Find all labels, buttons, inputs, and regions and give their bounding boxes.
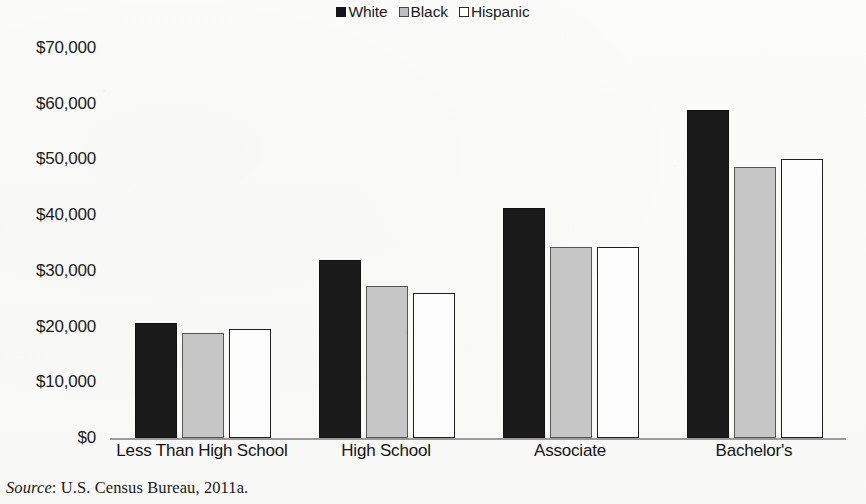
bar-hispanic-associate[interactable] <box>597 247 639 438</box>
legend-label-hispanic: Hispanic <box>471 4 530 20</box>
y-axis-tick-label: $70,000 <box>36 38 96 58</box>
x-axis-labels: Less Than High SchoolHigh SchoolAssociat… <box>110 441 846 467</box>
legend-item-hispanic[interactable]: Hispanic <box>459 4 530 20</box>
y-axis-tick-label: $0 <box>77 428 96 448</box>
source-note: Source: U.S. Census Bureau, 2011a. <box>6 478 248 498</box>
source-label: Source <box>6 478 52 497</box>
y-axis-tick-label: $30,000 <box>36 261 96 281</box>
chart-legend: White Black Hispanic <box>0 4 866 20</box>
legend-swatch-hispanic-icon <box>459 7 469 17</box>
bar-black-bachelor-s[interactable] <box>734 167 776 438</box>
bar-hispanic-bachelor-s[interactable] <box>781 159 823 438</box>
source-text: : U.S. Census Bureau, 2011a. <box>52 478 249 497</box>
bar-white-less-than-high-school[interactable] <box>135 323 177 438</box>
legend-item-black[interactable]: Black <box>399 4 448 20</box>
bar-hispanic-less-than-high-school[interactable] <box>229 329 271 438</box>
y-axis-tick-label: $50,000 <box>36 149 96 169</box>
bar-black-less-than-high-school[interactable] <box>182 333 224 438</box>
x-axis-tick-label: Associate <box>534 441 606 461</box>
bar-hispanic-high-school[interactable] <box>413 293 455 438</box>
y-axis-tick-label: $60,000 <box>36 94 96 114</box>
chart-figure: White Black Hispanic $70,000$60,000$50,0… <box>0 0 866 504</box>
bar-group <box>135 48 271 438</box>
x-axis-tick-label: Bachelor's <box>716 441 793 461</box>
y-axis-tick-label: $10,000 <box>36 372 96 392</box>
legend-swatch-black-icon <box>399 7 409 17</box>
x-axis-line <box>110 438 846 440</box>
bar-group <box>687 48 823 438</box>
bar-white-high-school[interactable] <box>319 260 361 438</box>
y-axis-tick-label: $40,000 <box>36 205 96 225</box>
legend-label-black: Black <box>411 4 448 20</box>
legend-swatch-white-icon <box>336 7 346 17</box>
y-axis: $70,000$60,000$50,000$40,000$30,000$20,0… <box>0 48 96 438</box>
legend-label-white: White <box>348 4 387 20</box>
bar-group <box>319 48 455 438</box>
legend-item-white[interactable]: White <box>336 4 387 20</box>
x-axis-tick-label: Less Than High School <box>116 441 287 461</box>
bar-white-associate[interactable] <box>503 208 545 438</box>
bar-white-bachelor-s[interactable] <box>687 110 729 438</box>
x-axis-tick-label: High School <box>341 441 430 461</box>
bar-group <box>503 48 639 438</box>
plot-area <box>110 48 846 438</box>
bar-black-high-school[interactable] <box>366 286 408 438</box>
bar-black-associate[interactable] <box>550 247 592 438</box>
y-axis-tick-label: $20,000 <box>36 317 96 337</box>
